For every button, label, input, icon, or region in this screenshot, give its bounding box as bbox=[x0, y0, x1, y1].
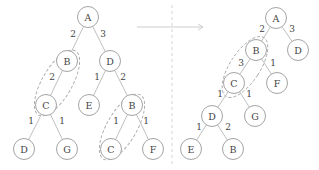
transform-arrow bbox=[137, 24, 203, 30]
right-tree: 23311112ABDCFDGEB bbox=[181, 8, 309, 160]
tree-node-e: E bbox=[181, 139, 202, 160]
tree-node-a: A bbox=[78, 7, 99, 28]
edge-weight-label: 2 bbox=[225, 122, 231, 132]
edge-weight-label: 1 bbox=[94, 72, 100, 82]
tree-node-b: B bbox=[57, 51, 78, 72]
tree-node-f: F bbox=[143, 139, 164, 160]
node-label: C bbox=[107, 144, 114, 155]
edge-weight-label: 1 bbox=[143, 116, 149, 126]
edge-weight-label: 1 bbox=[270, 58, 276, 68]
node-label: B bbox=[64, 56, 71, 67]
tree-node-d: D bbox=[14, 139, 35, 160]
node-label: D bbox=[20, 144, 28, 155]
node-label: C bbox=[42, 100, 49, 111]
tree-node-b: B bbox=[122, 95, 143, 116]
edge-weight-label: 3 bbox=[289, 24, 295, 34]
tree-node-c: C bbox=[224, 73, 245, 94]
tree-node-c: C bbox=[101, 139, 122, 160]
node-label: E bbox=[188, 144, 195, 155]
edge-weight-label: 1 bbox=[246, 89, 252, 99]
node-label: G bbox=[63, 144, 71, 155]
node-label: B bbox=[253, 45, 260, 56]
node-label: B bbox=[230, 144, 237, 155]
node-label: B bbox=[129, 100, 136, 111]
tree-node-a: A bbox=[266, 8, 287, 29]
edge-weight-label: 1 bbox=[217, 89, 223, 99]
tree-node-e: E bbox=[79, 95, 100, 116]
node-label: F bbox=[274, 78, 281, 89]
node-label: A bbox=[84, 12, 92, 23]
edge-weight-label: 2 bbox=[259, 24, 265, 34]
left-tree: 232121111ABDCEBDGCF bbox=[14, 7, 164, 167]
node-label: D bbox=[106, 56, 114, 67]
rotation-group-outline bbox=[26, 43, 89, 122]
tree-node-d: D bbox=[202, 106, 223, 127]
node-label: F bbox=[150, 144, 157, 155]
edge-weight-label: 3 bbox=[238, 58, 244, 68]
tree-rotation-diagram: 232121111ABDCEBDGCF 23311112ABDCFDGEB bbox=[0, 0, 319, 170]
edge-weight-label: 1 bbox=[28, 116, 34, 126]
node-label: E bbox=[86, 100, 93, 111]
node-label: A bbox=[272, 13, 280, 24]
tree-node-c: C bbox=[36, 95, 57, 116]
tree-node-d: D bbox=[100, 51, 121, 72]
edge-weight-label: 2 bbox=[120, 72, 126, 82]
edge-weight-label: 2 bbox=[49, 72, 55, 82]
tree-node-d: D bbox=[288, 40, 309, 61]
tree-node-b: B bbox=[246, 40, 267, 61]
node-label: C bbox=[230, 78, 237, 89]
tree-node-g: G bbox=[57, 139, 78, 160]
edge-weight-label: 1 bbox=[59, 116, 65, 126]
node-label: G bbox=[251, 111, 259, 122]
edge-weight-label: 1 bbox=[196, 122, 202, 132]
tree-node-g: G bbox=[245, 106, 266, 127]
edge-weight-label: 3 bbox=[100, 29, 106, 39]
node-label: D bbox=[208, 111, 216, 122]
node-label: D bbox=[294, 45, 302, 56]
tree-node-f: F bbox=[267, 73, 288, 94]
tree-node-b: B bbox=[223, 139, 244, 160]
edge-weight-label: 1 bbox=[113, 116, 119, 126]
edge-weight-label: 2 bbox=[70, 29, 76, 39]
